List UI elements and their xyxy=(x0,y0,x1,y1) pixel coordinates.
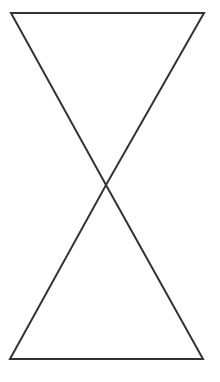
top-inverted-triangle xyxy=(11,13,204,185)
hourglass-diagram xyxy=(0,0,220,382)
diagram-canvas xyxy=(0,0,220,382)
bottom-upright-triangle xyxy=(10,185,203,359)
